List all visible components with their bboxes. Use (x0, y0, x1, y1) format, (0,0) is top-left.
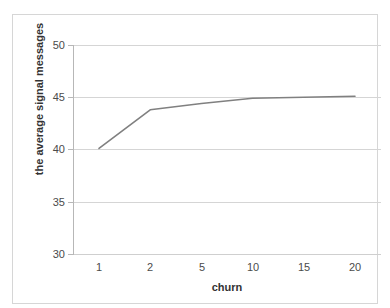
y-tick-label-40: 40 (25, 143, 65, 155)
y-tick-label-45: 45 (25, 91, 65, 103)
y-tick-45 (68, 97, 73, 98)
y-axis-line (73, 45, 74, 255)
cropped-caption-remnant (86, 0, 196, 3)
x-tick-label-10: 10 (233, 261, 273, 273)
y-tick-35 (68, 202, 73, 203)
series-line-chart (73, 45, 381, 254)
series-line-average-signal-messages (99, 96, 355, 148)
x-tick-label-20: 20 (335, 261, 375, 273)
x-axis-baseline (73, 254, 381, 255)
y-tick-label-50: 50 (25, 39, 65, 51)
y-tick-label-30: 30 (25, 248, 65, 260)
x-tick-label-5: 5 (182, 261, 222, 273)
y-tick-50 (68, 45, 73, 46)
x-tick-label-15: 15 (284, 261, 324, 273)
y-tick-40 (68, 149, 73, 150)
x-tick-label-1: 1 (79, 261, 119, 273)
plot-area (73, 45, 381, 254)
x-tick-label-2: 2 (130, 261, 170, 273)
x-axis-tick-labels: 1 2 5 10 15 20 (73, 261, 381, 277)
y-tick-30 (68, 254, 73, 255)
x-axis-title: churn (73, 281, 381, 293)
chart-frame: 50 45 40 35 30 the average signal messag… (12, 14, 378, 304)
y-tick-label-35: 35 (25, 196, 65, 208)
y-axis-title: the average signal messages (33, 9, 45, 189)
